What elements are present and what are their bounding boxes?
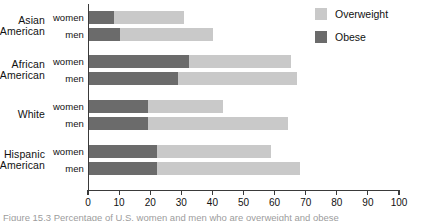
figure-caption: Figure 15.3 Percentage of U.S. women and… (3, 212, 339, 221)
x-tick (274, 190, 275, 195)
bar-segment-overweight (157, 145, 271, 158)
group-label-african-american: African American (0, 59, 45, 82)
bar-segment-overweight (148, 117, 288, 130)
bar-segment-obese (89, 55, 189, 68)
group-label-line2: American (0, 160, 45, 172)
bar-segment-obese (89, 28, 120, 41)
x-tick (181, 190, 182, 195)
group-label-line1: White (18, 109, 45, 121)
series-label: women (53, 57, 84, 67)
legend-swatch-obese-icon (315, 31, 327, 43)
x-tick-label: 100 (391, 197, 408, 208)
bar-segment-overweight (148, 100, 223, 113)
bar-segment-overweight (189, 55, 292, 68)
x-tick-label: 10 (114, 197, 125, 208)
group-label-white: White (18, 109, 45, 121)
series-label: women (53, 13, 84, 23)
bar-row (89, 117, 400, 130)
bar-segment-obese (89, 11, 114, 24)
bar-row (89, 145, 400, 158)
legend-swatch-overweight-icon (315, 8, 327, 20)
group-label-hispanic-american: Hispanic American (0, 149, 45, 172)
x-tick-label: 60 (269, 197, 280, 208)
bar-segment-overweight (178, 72, 298, 85)
group-label-line2: American (0, 70, 45, 82)
bar-row (89, 72, 400, 85)
legend-item-obese: Obese (315, 31, 421, 43)
x-tick-label: 40 (207, 197, 218, 208)
x-tick (305, 190, 306, 195)
series-label: men (65, 164, 84, 174)
x-tick (119, 190, 120, 195)
x-tick-label: 80 (331, 197, 342, 208)
legend-label-overweight: Overweight (335, 8, 388, 20)
bar-segment-overweight (157, 162, 300, 175)
x-tick-label: 50 (238, 197, 249, 208)
series-label: men (65, 30, 84, 40)
x-tick-label: 90 (362, 197, 373, 208)
x-tick (336, 190, 337, 195)
legend: Overweight Obese (315, 8, 421, 54)
figure-overweight-obese-by-ethnicity: Asian American African American White Hi… (0, 0, 424, 221)
x-tick-label: 20 (145, 197, 156, 208)
bar-row (89, 100, 400, 113)
x-tick (212, 190, 213, 195)
x-tick (150, 190, 151, 195)
series-label: women (53, 102, 84, 112)
bar-segment-obese (89, 100, 148, 113)
x-tick-label: 30 (176, 197, 187, 208)
x-tick (243, 190, 244, 195)
x-tick (398, 190, 399, 195)
bar-segment-obese (89, 162, 157, 175)
bar-segment-obese (89, 145, 157, 158)
legend-label-obese: Obese (335, 31, 366, 43)
x-tick (367, 190, 368, 195)
x-tick-label: 0 (85, 197, 91, 208)
bar-row (89, 162, 400, 175)
x-tick (87, 190, 88, 195)
bar-segment-obese (89, 72, 178, 85)
series-label: women (53, 147, 84, 157)
x-tick-label: 70 (300, 197, 311, 208)
group-label-line2: American (0, 26, 45, 38)
group-label-asian-american: Asian American (0, 15, 45, 38)
legend-item-overweight: Overweight (315, 8, 421, 20)
bar-segment-obese (89, 117, 148, 130)
bar-segment-overweight (114, 11, 184, 24)
series-label: men (65, 74, 84, 84)
series-label: men (65, 119, 84, 129)
bar-row (89, 55, 400, 68)
bar-segment-overweight (120, 28, 213, 41)
